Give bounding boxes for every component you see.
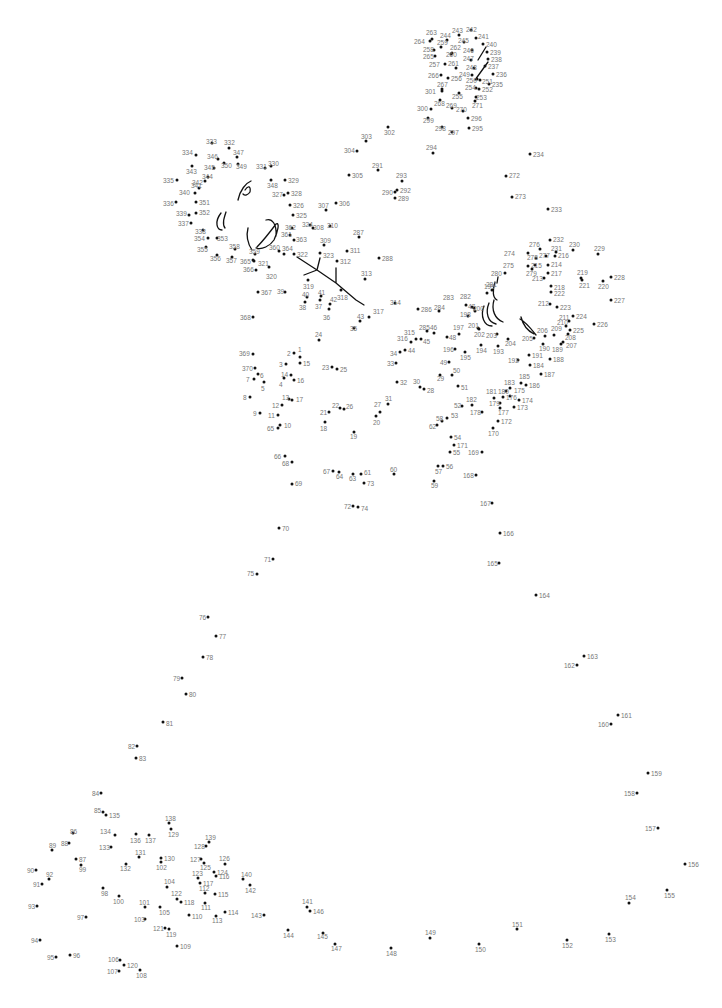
- dot-number-label: 258: [423, 46, 434, 53]
- dot-number-label: 139: [205, 834, 216, 841]
- dot-point: [293, 352, 296, 355]
- dot-number-label: 205: [522, 335, 533, 342]
- dot-number-label: 186: [529, 382, 540, 389]
- dot-number-label: 74: [361, 505, 369, 512]
- dot-number-label: 50: [453, 367, 461, 374]
- dot-number-label: 60: [390, 466, 398, 473]
- dot-number-label: 91: [33, 881, 41, 888]
- dot-point: [486, 51, 489, 54]
- dot-number-label: 2: [287, 350, 291, 357]
- dot-number-label: 274: [504, 250, 515, 257]
- dot-point: [401, 180, 404, 183]
- dot-point: [256, 573, 259, 576]
- dot-number-label: 243: [452, 27, 463, 34]
- dot-number-label: 70: [282, 525, 290, 532]
- dot-number-label: 320: [266, 273, 277, 280]
- dot-number-label: 360: [269, 244, 280, 251]
- dot-number-label: 272: [509, 172, 520, 179]
- dot-point: [195, 201, 198, 204]
- dot-number-label: 57: [435, 468, 443, 475]
- dot-number-label: 166: [503, 530, 514, 537]
- dot-point: [299, 362, 302, 365]
- dot-point: [290, 374, 293, 377]
- dot-number-label: 368: [240, 314, 251, 321]
- dot-number-label: 344: [202, 173, 213, 180]
- dot-number-label: 25: [340, 366, 348, 373]
- dot-number-label: 234: [533, 151, 544, 158]
- dot-number-label: 107: [107, 968, 118, 975]
- dot-number-label: 284: [434, 304, 445, 311]
- eye-stroke-left: [217, 212, 226, 230]
- dot-number-label: 66: [274, 453, 282, 460]
- dot-number-label: 79: [173, 675, 181, 682]
- dot-number-label: 238: [491, 56, 502, 63]
- hand-stroke-2: [482, 300, 503, 326]
- dot-number-label: 161: [621, 712, 632, 719]
- dot-point: [434, 55, 437, 58]
- dot-number-label: 311: [350, 247, 361, 254]
- dot-number-label: 255: [452, 93, 463, 100]
- dot-point: [188, 914, 191, 917]
- dot-number-label: 152: [562, 942, 573, 949]
- dot-point: [257, 291, 260, 294]
- dot-point: [254, 367, 257, 370]
- dot-point: [387, 403, 390, 406]
- dot-point: [176, 945, 179, 948]
- dot-number-label: 158: [624, 790, 635, 797]
- dot-number-label: 363: [296, 236, 307, 243]
- dot-number-label: 169: [468, 449, 479, 456]
- dot-number-label: 239: [490, 49, 501, 56]
- dot-number-label: 307: [318, 202, 329, 209]
- dot-number-label: 299: [423, 117, 434, 124]
- dot-number-label: 143: [251, 912, 262, 919]
- dot-number-label: 67: [323, 468, 331, 475]
- dot-point: [190, 222, 193, 225]
- dot-point: [332, 470, 335, 473]
- dot-point: [36, 905, 39, 908]
- dot-point: [481, 411, 484, 414]
- dot-number-label: 92: [46, 871, 54, 878]
- dot-number-label: 159: [651, 770, 662, 777]
- dot-number-label: 207: [566, 342, 577, 349]
- dot-number-label: 131: [135, 849, 146, 856]
- dot-point: [299, 356, 302, 359]
- dot-number-label: 225: [573, 327, 584, 334]
- dot-point: [444, 63, 447, 66]
- dot-point: [252, 316, 255, 319]
- dot-point: [119, 959, 122, 962]
- dot-number-label: 150: [475, 946, 486, 953]
- dot-number-label: 128: [194, 843, 205, 850]
- dot-point: [502, 396, 505, 399]
- dot-number-label: 154: [625, 894, 636, 901]
- dot-number-label: 82: [128, 743, 136, 750]
- dot-number-label: 231: [551, 245, 562, 252]
- dot-point: [105, 814, 108, 817]
- dot-number-label: 61: [364, 469, 372, 476]
- dot-number-label: 270: [456, 106, 467, 113]
- dot-number-label: 56: [446, 463, 454, 470]
- dot-point: [509, 387, 512, 390]
- dot-point: [363, 482, 366, 485]
- dot-number-label: 18: [320, 425, 328, 432]
- dot-point: [486, 292, 489, 295]
- dot-number-label: 3: [279, 361, 283, 368]
- dot-number-label: 148: [386, 950, 397, 957]
- dot-point: [528, 354, 531, 357]
- dot-number-label: 212: [538, 300, 549, 307]
- dot-number-label: 206: [537, 327, 548, 334]
- dot-number-label: 54: [454, 434, 462, 441]
- dot-number-label: 32: [400, 379, 408, 386]
- cheek-stroke: [247, 228, 252, 250]
- dot-number-label: 322: [297, 251, 308, 258]
- dot-point: [447, 77, 450, 80]
- dot-number-label: 293: [396, 172, 407, 179]
- dot-number-label: 298: [435, 125, 446, 132]
- dot-number-label: 259: [437, 39, 448, 46]
- dot-number-label: 20: [373, 419, 381, 426]
- dot-number-label: 122: [171, 890, 182, 897]
- dot-number-label: 216: [558, 252, 569, 259]
- dot-number-label: 72: [344, 503, 352, 510]
- dot-point: [195, 154, 198, 157]
- dot-point: [176, 179, 179, 182]
- dot-number-label: 102: [156, 864, 167, 871]
